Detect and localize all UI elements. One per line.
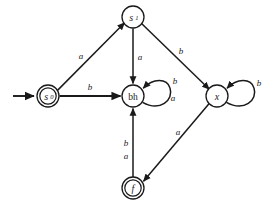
- fsm-svg: s 0 s 1 bh x f a b a b b a: [0, 0, 275, 210]
- node-s0[interactable]: s 0: [37, 85, 59, 107]
- edge-s0-to-s1: [58, 23, 125, 91]
- node-x-label: x: [214, 91, 220, 102]
- node-s1-subscript: 1: [135, 14, 138, 21]
- node-f[interactable]: f: [122, 177, 144, 199]
- edge-label-x-self-b: b: [257, 78, 262, 88]
- automaton-diagram: s 0 s 1 bh x f a b a b b a: [0, 0, 275, 210]
- edge-label-s1-x: b: [179, 46, 184, 56]
- node-bh[interactable]: bh: [122, 85, 144, 107]
- node-s0-label: s: [44, 91, 48, 102]
- edge-label-bh-self-a: a: [171, 93, 176, 103]
- edge-label-f-bh-a: a: [124, 151, 129, 161]
- edge-label-bh-self-b: b: [173, 76, 178, 86]
- node-bh-label: bh: [128, 92, 138, 102]
- node-s1[interactable]: s 1: [122, 6, 144, 28]
- edge-label-s0-s1: a: [79, 51, 84, 61]
- edge-label-s1-bh: a: [138, 52, 143, 62]
- edge-label-s0-bh: b: [88, 82, 93, 92]
- self-loop-bh: [143, 81, 171, 106]
- node-x[interactable]: x: [206, 85, 228, 107]
- edge-label-f-bh-b: b: [124, 138, 129, 148]
- edge-label-x-f: a: [176, 127, 181, 137]
- node-s1-label: s: [129, 12, 133, 23]
- edge-x-to-f: [144, 104, 210, 182]
- self-loop-x: [226, 81, 254, 106]
